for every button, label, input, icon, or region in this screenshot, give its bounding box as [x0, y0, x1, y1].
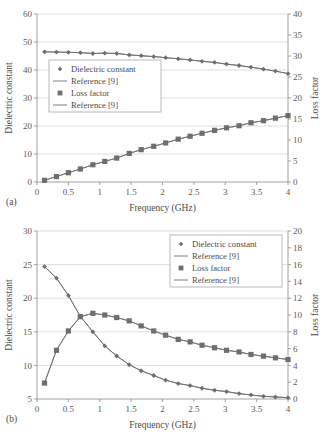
chart-svg-b: 510152025300246810121416182000.511.522.5…: [0, 217, 329, 434]
tick-label-bottom: 2: [160, 187, 165, 197]
tick-label-left: 30: [23, 93, 33, 103]
tick-label-right: 35: [293, 30, 303, 40]
data-point-marker: [151, 144, 156, 149]
data-point-marker: [176, 381, 181, 386]
tick-label-bottom: 1.5: [126, 404, 138, 414]
tick-label-bottom: 4: [286, 187, 291, 197]
data-point-marker: [78, 166, 83, 171]
data-point-marker: [237, 63, 242, 68]
legend-item-label: Reference [9]: [71, 76, 118, 86]
chart-panel-a: 0102030405060051015202530354000.511.522.…: [0, 0, 329, 217]
data-point-marker: [199, 131, 204, 136]
data-point-marker: [199, 343, 204, 348]
tick-label-right: 4: [293, 361, 298, 371]
data-point-marker: [273, 116, 278, 121]
data-point-marker: [66, 328, 71, 333]
tick-label-right: 5: [293, 156, 298, 166]
data-point-marker: [188, 383, 193, 388]
tick-label-right: 18: [293, 243, 303, 253]
tick-label-bottom: 0.5: [63, 187, 75, 197]
tick-label-right: 16: [293, 260, 303, 270]
x-axis-title: Frequency (GHz): [129, 203, 196, 214]
data-point-marker: [176, 56, 181, 61]
panel-label-a: (a): [6, 197, 17, 208]
legend-item-label: Dielectric constant: [192, 239, 257, 249]
data-point-marker: [139, 53, 144, 58]
tick-label-left: 20: [23, 121, 33, 131]
data-point-marker: [78, 314, 83, 319]
data-point-marker: [139, 323, 144, 328]
data-point-marker: [285, 357, 290, 362]
data-point-marker: [127, 318, 132, 323]
data-point-marker: [163, 333, 168, 338]
data-point-marker: [236, 349, 241, 354]
data-point-marker: [54, 174, 59, 179]
tick-label-left: 40: [23, 65, 33, 75]
data-point-marker: [212, 60, 217, 65]
tick-label-bottom: 0: [35, 187, 40, 197]
data-point-marker: [286, 71, 291, 76]
data-point-marker: [102, 159, 107, 164]
tick-label-left: 5: [28, 394, 33, 404]
data-point-marker: [200, 59, 205, 64]
legend-marker-square-icon: [179, 266, 184, 271]
data-point-marker: [176, 137, 181, 142]
tick-label-left: 0: [28, 177, 33, 187]
data-point-marker: [127, 52, 132, 57]
tick-label-bottom: 3.5: [251, 404, 263, 414]
data-point-marker: [114, 51, 119, 56]
chart-svg-a: 0102030405060051015202530354000.511.522.…: [0, 0, 329, 217]
tick-label-bottom: 4: [286, 404, 291, 414]
tick-label-bottom: 3.5: [251, 187, 263, 197]
data-point-marker: [224, 125, 229, 130]
tick-label-bottom: 2.5: [188, 404, 200, 414]
data-point-marker: [249, 393, 254, 398]
tick-label-right: 12: [293, 293, 302, 303]
tick-label-right: 0: [293, 394, 298, 404]
data-point-marker: [212, 388, 217, 393]
tick-label-right: 20: [293, 93, 303, 103]
tick-label-bottom: 2: [160, 404, 165, 414]
data-point-marker: [237, 391, 242, 396]
y-axis-right-title: Loss factor: [310, 76, 320, 119]
data-point-marker: [261, 118, 266, 123]
data-point-marker: [249, 65, 254, 70]
data-point-marker: [163, 55, 168, 60]
data-point-marker: [224, 348, 229, 353]
tick-label-left: 60: [23, 9, 33, 19]
data-point-marker: [261, 354, 266, 359]
tick-label-left: 10: [23, 149, 33, 159]
tick-label-bottom: 2.5: [188, 187, 200, 197]
legend-marker-square-icon: [58, 91, 63, 96]
tick-label-right: 15: [293, 114, 303, 124]
x-axis-title: Frequency (GHz): [129, 420, 196, 431]
legend-item-label: Dielectric constant: [71, 64, 136, 74]
chart-panel-b: 510152025300246810121416182000.511.522.5…: [0, 217, 329, 434]
tick-label-bottom: 1: [98, 187, 103, 197]
tick-label-right: 10: [293, 310, 303, 320]
tick-label-left: 15: [23, 327, 33, 337]
data-point-marker: [248, 352, 253, 357]
data-point-marker: [151, 54, 156, 59]
tick-label-left: 30: [23, 226, 33, 236]
data-point-marker: [54, 348, 59, 353]
data-point-marker: [188, 58, 193, 63]
tick-label-right: 20: [293, 226, 303, 236]
tick-label-bottom: 1: [98, 404, 103, 414]
data-point-marker: [90, 51, 95, 56]
data-point-marker: [285, 113, 290, 118]
data-point-marker: [224, 62, 229, 67]
data-point-marker: [261, 394, 266, 399]
data-point-marker: [54, 50, 59, 55]
data-point-marker: [163, 140, 168, 145]
y-axis-left-title: Dielectric constant: [4, 279, 14, 351]
data-point-marker: [139, 147, 144, 152]
tick-label-right: 30: [293, 51, 303, 61]
data-point-marker: [224, 389, 229, 394]
data-point-marker: [188, 134, 193, 139]
tick-label-left: 25: [23, 260, 33, 270]
tick-label-bottom: 3: [223, 187, 228, 197]
data-point-marker: [200, 386, 205, 391]
data-point-marker: [261, 67, 266, 72]
legend-item-label: Reference [9]: [192, 251, 239, 261]
